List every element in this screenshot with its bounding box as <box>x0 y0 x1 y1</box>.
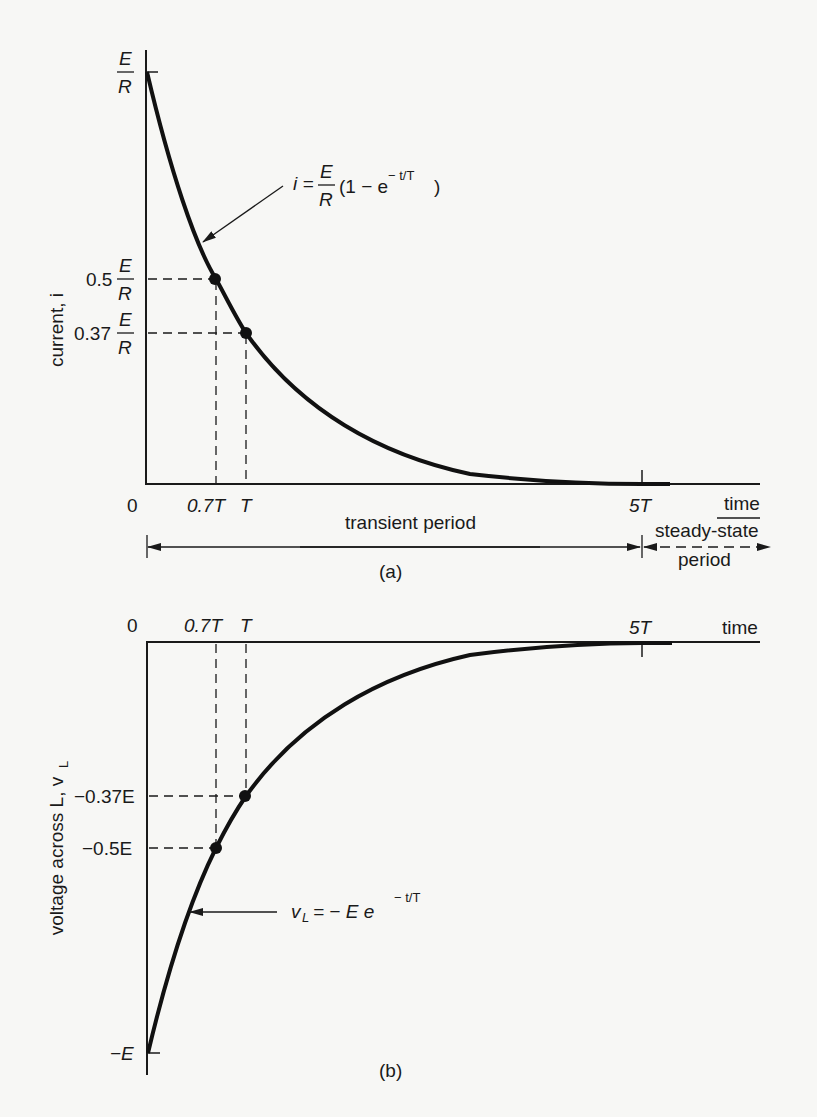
current-curve <box>147 72 670 484</box>
ytick-er-a: E R <box>117 48 134 97</box>
svg-text:i =: i = <box>293 173 314 194</box>
xtick-5t-a: 5T <box>629 495 653 516</box>
x-axis-label-a: time <box>724 493 760 514</box>
voltage-curve <box>148 643 672 1053</box>
x-axis-label-b: time <box>722 617 758 638</box>
ytick-einv-b: −0.37E <box>74 786 135 807</box>
svg-text:R: R <box>118 337 132 358</box>
xtick-t-a: T <box>240 495 253 516</box>
svg-text:E: E <box>119 48 132 69</box>
caption-a: (a) <box>379 561 402 582</box>
svg-text:R: R <box>118 283 132 304</box>
svg-text:R: R <box>118 76 132 97</box>
equation-b: v L = − E e − t/T <box>291 890 420 925</box>
point-0.7T-a <box>209 273 221 285</box>
equation-pointer-a <box>203 186 283 242</box>
figure-a: E R 0.5 E R 0.37 E R current, i 0 0.7T T… <box>46 48 770 582</box>
svg-text:): ) <box>434 176 440 197</box>
svg-text:0.37: 0.37 <box>74 323 111 344</box>
svg-text:− t/T: − t/T <box>394 890 420 905</box>
svg-text:L: L <box>56 761 71 768</box>
y-axis-label-b: voltage across L, v L <box>46 761 71 935</box>
steady-state-label: steady-state <box>655 520 759 541</box>
svg-text:= − E e: = − E e <box>313 901 374 922</box>
xtick-5t-b: 5T <box>629 617 653 638</box>
xtick-t-b: T <box>240 615 253 636</box>
xtick-0-b: 0 <box>127 615 138 636</box>
figure-canvas: E R 0.5 E R 0.37 E R current, i 0 0.7T T… <box>0 0 817 1117</box>
svg-text:(1 − e: (1 − e <box>339 176 388 197</box>
ytick-bottom-b: −E <box>110 1043 134 1064</box>
svg-text:− t/T: − t/T <box>388 168 414 183</box>
transient-period-label: transient period <box>345 512 476 533</box>
svg-text:L: L <box>302 910 309 925</box>
svg-text:E: E <box>119 255 132 276</box>
point-T-b <box>239 790 251 802</box>
ytick-einv-a: 0.37 E R <box>74 309 134 358</box>
figure-b: −0.37E −0.5E −E voltage across L, v L 0 … <box>46 615 760 1081</box>
xtick-07t-b: 0.7T <box>184 615 223 636</box>
caption-b: (b) <box>379 1060 402 1081</box>
y-axis-label-a: current, i <box>46 293 67 367</box>
equation-a: i = E R (1 − e − t/T ) <box>293 161 440 210</box>
svg-text:0.5: 0.5 <box>86 269 112 290</box>
point-0.7T-b <box>210 842 222 854</box>
xtick-0-a: 0 <box>127 495 138 516</box>
svg-text:E: E <box>119 309 132 330</box>
steady-period-label: period <box>678 549 731 570</box>
ytick-half-b: −0.5E <box>82 838 132 859</box>
ytick-half-a: 0.5 E R <box>86 255 134 304</box>
svg-text:E: E <box>320 161 333 182</box>
svg-text:R: R <box>319 189 333 210</box>
svg-text:v: v <box>291 901 302 922</box>
svg-text:voltage across L, v: voltage across L, v <box>46 776 67 935</box>
point-T-a <box>240 327 252 339</box>
xtick-07t-a: 0.7T <box>187 495 226 516</box>
